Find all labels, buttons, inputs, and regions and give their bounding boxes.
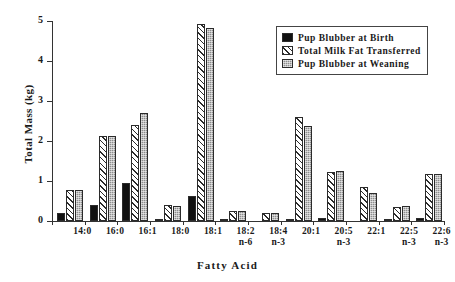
legend-item: Total Milk Fat Transferred	[282, 44, 421, 57]
bar	[336, 171, 344, 221]
bar	[164, 205, 172, 221]
legend-label: Total Milk Fat Transferred	[298, 46, 421, 56]
bar-group	[57, 21, 84, 221]
bar	[206, 28, 214, 221]
bar	[122, 183, 130, 221]
bar	[304, 126, 312, 221]
bar-group	[188, 21, 215, 221]
x-axis-tick	[346, 221, 347, 225]
x-axis-tick	[444, 221, 445, 225]
bar-group	[220, 21, 247, 221]
bar	[99, 136, 107, 221]
x-axis-tick	[248, 221, 249, 225]
x-axis-tick	[117, 221, 118, 225]
x-axis-tick	[215, 221, 216, 225]
y-axis-tick: 5	[47, 21, 52, 22]
legend-swatch	[282, 33, 293, 42]
bar	[262, 213, 270, 221]
x-axis-tick	[150, 221, 151, 225]
bar	[295, 117, 303, 221]
bar-group	[90, 21, 117, 221]
bar	[318, 218, 326, 221]
bar	[155, 219, 163, 221]
bar-chart-figure: Total Mass (kg) Fatty Acid 012345 14:016…	[0, 0, 455, 282]
y-axis-tick: 3	[47, 101, 52, 102]
bar	[197, 24, 205, 221]
legend-swatch	[282, 59, 293, 68]
x-axis-tick	[379, 221, 380, 225]
bar	[393, 207, 401, 221]
bar	[238, 211, 246, 221]
bar	[220, 219, 228, 221]
y-axis-line	[52, 21, 53, 221]
x-axis-tick	[52, 221, 53, 225]
bar	[384, 219, 392, 221]
bar	[173, 206, 181, 221]
y-axis-title: Total Mass (kg)	[22, 49, 34, 199]
bar	[402, 206, 410, 221]
legend-label: Pup Blubber at Weaning	[298, 59, 409, 69]
bar-group	[155, 21, 182, 221]
bar	[416, 218, 424, 221]
bar	[229, 211, 237, 221]
bar	[108, 136, 116, 221]
x-axis-tick	[85, 221, 86, 225]
bar	[188, 196, 196, 221]
x-axis-tick	[313, 221, 314, 225]
y-axis-tick-label: 2	[38, 134, 43, 145]
bar	[369, 193, 377, 221]
y-axis-tick-label: 5	[38, 14, 43, 25]
bar	[66, 190, 74, 221]
bar	[131, 125, 139, 221]
bar	[425, 174, 433, 221]
bar	[140, 113, 148, 221]
bar-group	[122, 21, 149, 221]
legend-item: Pup Blubber at Weaning	[282, 57, 421, 70]
bar	[434, 174, 442, 221]
x-axis-tick-label: 22:6n-3	[412, 226, 455, 248]
legend-swatch	[282, 46, 293, 55]
bar	[327, 172, 335, 221]
x-axis-tick	[411, 221, 412, 225]
bar	[90, 205, 98, 221]
x-axis-tick	[183, 221, 184, 225]
bar	[271, 213, 279, 221]
y-axis-tick: 2	[47, 141, 52, 142]
y-axis-tick: 1	[47, 181, 52, 182]
bar	[57, 213, 65, 221]
bar	[286, 219, 294, 221]
y-axis-tick: 4	[47, 61, 52, 62]
legend-label: Pup Blubber at Birth	[298, 33, 394, 43]
x-axis-title: Fatty Acid	[0, 259, 455, 271]
bar	[75, 190, 83, 221]
bar	[360, 187, 368, 221]
chart-legend: Pup Blubber at BirthTotal Milk Fat Trans…	[276, 26, 428, 75]
y-axis-tick-label: 1	[38, 174, 43, 185]
legend-item: Pup Blubber at Birth	[282, 31, 421, 44]
y-axis-tick-label: 0	[38, 214, 43, 225]
y-axis-tick-label: 4	[38, 54, 43, 65]
x-axis-tick	[281, 221, 282, 225]
y-axis-tick-label: 3	[38, 94, 43, 105]
